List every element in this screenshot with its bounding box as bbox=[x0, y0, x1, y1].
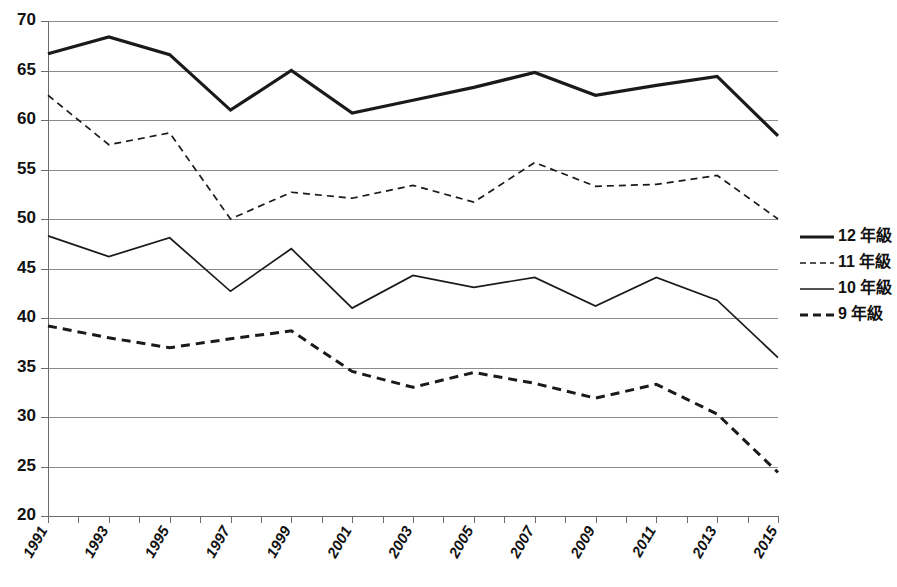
legend-label-3: 9 年級 bbox=[838, 304, 883, 322]
chart-legend: 12 年級11 年級10 年級9 年級 bbox=[800, 226, 892, 322]
x-axis-tick-label-2015: 2015 bbox=[749, 522, 781, 561]
x-axis-tick-label-2009: 2009 bbox=[566, 522, 598, 561]
series-line-1 bbox=[48, 95, 778, 219]
y-axis-tick-label-30: 30 bbox=[17, 406, 36, 425]
legend-label-0: 12 年級 bbox=[838, 226, 892, 244]
x-axis-tick-label-2007: 2007 bbox=[505, 522, 537, 561]
y-axis-tick-label-60: 60 bbox=[17, 109, 36, 128]
y-axis-tick-label-35: 35 bbox=[17, 357, 36, 376]
x-axis-tick-label-1995: 1995 bbox=[141, 522, 173, 560]
x-axis-labels: 1991199319951997199920012003200520072009… bbox=[19, 522, 781, 561]
y-axis-tick-label-45: 45 bbox=[17, 258, 36, 277]
y-axis-tick-label-20: 20 bbox=[17, 505, 36, 524]
x-axis-tick-label-1991: 1991 bbox=[19, 523, 50, 560]
y-axis-tick-label-65: 65 bbox=[17, 60, 36, 79]
y-axis-tick-label-40: 40 bbox=[17, 307, 36, 326]
x-axis-tick-label-2011: 2011 bbox=[628, 523, 659, 560]
y-axis-tick-label-25: 25 bbox=[17, 456, 36, 475]
legend-label-2: 10 年級 bbox=[838, 278, 892, 296]
line-chart: 2025303540455055606570 19911993199519971… bbox=[0, 0, 897, 587]
x-axis-tick-label-2003: 2003 bbox=[384, 522, 416, 561]
x-axis-tick-label-2013: 2013 bbox=[688, 522, 720, 561]
x-axis-tick-label-2005: 2005 bbox=[445, 522, 477, 561]
y-axis-tick-label-55: 55 bbox=[17, 159, 36, 178]
x-axis-tick-label-1993: 1993 bbox=[80, 522, 112, 560]
x-axis-tick-label-2001: 2001 bbox=[323, 523, 355, 561]
y-axis-tick-label-70: 70 bbox=[17, 10, 36, 29]
gridlines-group bbox=[48, 22, 778, 517]
axis-lines bbox=[48, 21, 778, 517]
data-series-group bbox=[48, 37, 778, 473]
legend-label-1: 11 年級 bbox=[838, 252, 891, 270]
y-axis-labels: 2025303540455055606570 bbox=[17, 10, 48, 524]
x-axis-tick-label-1997: 1997 bbox=[202, 522, 234, 560]
y-axis-tick-label-50: 50 bbox=[17, 208, 36, 227]
chart-canvas: 2025303540455055606570 19911993199519971… bbox=[0, 0, 897, 587]
x-axis-tick-label-1999: 1999 bbox=[263, 522, 295, 560]
series-line-2 bbox=[48, 236, 778, 358]
series-line-3 bbox=[48, 326, 778, 473]
